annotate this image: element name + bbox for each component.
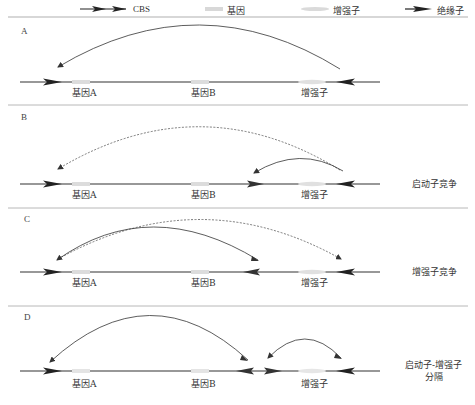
loop-arrow <box>254 158 343 173</box>
legend-cbs-icon <box>80 6 126 12</box>
legend-insulator-icon <box>405 6 432 12</box>
enhancer-oval <box>298 270 326 274</box>
panel-d-description-line2: 分隔 <box>405 371 462 383</box>
gene-a-box <box>72 80 90 84</box>
gene-a-label: 基因A <box>72 191 97 200</box>
legend-cbs-label: CBS <box>133 4 150 14</box>
enhancer-oval <box>298 369 326 373</box>
panel-c-letter: C <box>24 214 30 224</box>
enhancer-label: 增强子 <box>301 279 328 288</box>
gene-b-box <box>191 369 209 373</box>
loop-arrow <box>268 339 341 358</box>
diagram-canvas <box>0 0 475 405</box>
gene-b-label: 基因B <box>191 191 216 200</box>
gene-b-label: 基因B <box>191 279 216 288</box>
panel-a-letter: A <box>21 26 28 36</box>
panel-d-letter: D <box>24 312 31 322</box>
panel-b-dna <box>20 127 380 188</box>
gene-a-box <box>72 369 90 373</box>
legend-insulator-label: 绝缘子 <box>437 4 464 17</box>
legend-enhancer-label: 增强子 <box>333 4 360 17</box>
legend-enhancer-icon <box>301 7 329 11</box>
loop-arrow-solid <box>57 227 258 260</box>
gene-b-box <box>191 182 209 186</box>
enhancer-label: 增强子 <box>301 191 328 200</box>
panel-b-letter: B <box>21 112 27 122</box>
gene-a-label: 基因A <box>72 89 97 98</box>
legend-gene-icon <box>205 7 223 11</box>
panel-b-description: 启动子竞争 <box>412 178 457 190</box>
panel-a-dna <box>20 25 380 86</box>
enhancer-oval <box>298 182 326 186</box>
gene-b-box <box>191 80 209 84</box>
gene-b-label: 基因B <box>191 89 216 98</box>
loop-arrow-dashed <box>58 220 341 260</box>
gene-a-box <box>72 270 90 274</box>
panel-d-description: 启动子-增强子 分隔 <box>405 359 462 383</box>
gene-a-box <box>72 182 90 186</box>
gene-a-label: 基因A <box>72 380 97 389</box>
loop-arrow-dashed <box>58 127 340 170</box>
enhancer-oval <box>298 80 326 84</box>
enhancer-label: 增强子 <box>301 380 328 389</box>
panel-c-dna <box>20 220 380 276</box>
legend-gene-label: 基因 <box>227 4 245 17</box>
panel-c-description: 增强子竞争 <box>412 266 457 278</box>
loop-arrow <box>50 315 248 362</box>
gene-a-label: 基因A <box>72 279 97 288</box>
panel-d-dna <box>20 315 380 374</box>
panel-d-description-line1: 启动子-增强子 <box>405 359 462 371</box>
enhancer-label: 增强子 <box>301 89 328 98</box>
loop-arrow <box>58 25 340 69</box>
gene-b-box <box>191 270 209 274</box>
gene-b-label: 基因B <box>191 380 216 389</box>
